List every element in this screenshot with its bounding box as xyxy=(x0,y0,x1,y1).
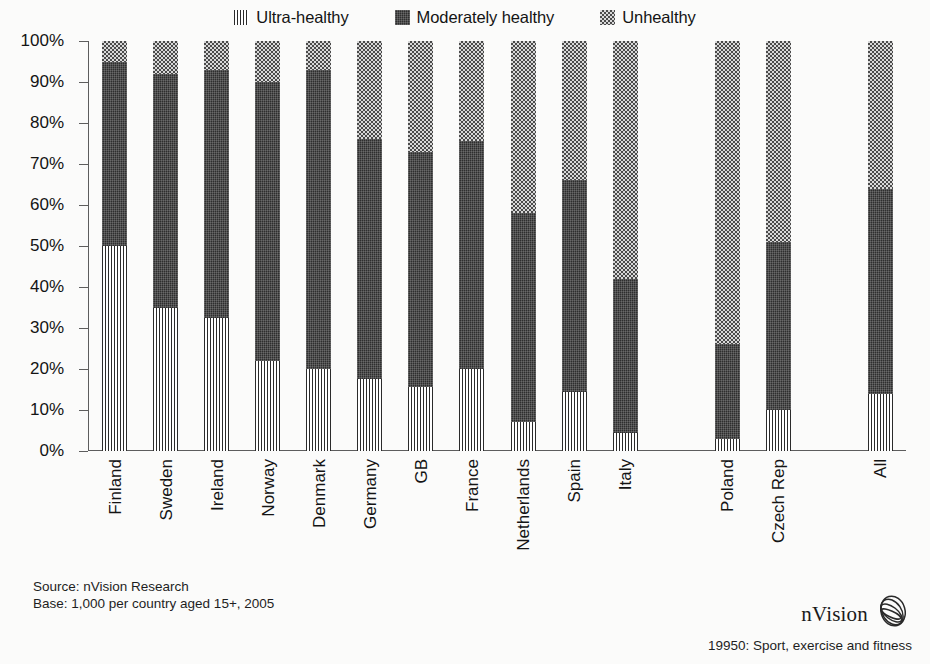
bar-column xyxy=(306,41,331,451)
bar-stack xyxy=(459,41,484,451)
x-tick-label: Spain xyxy=(565,459,585,502)
legend-item-label: Ultra-healthy xyxy=(256,8,348,27)
bar-segment-unhealthy xyxy=(511,41,536,213)
bar-segment-unhealthy xyxy=(562,41,587,180)
bar-segment-unhealthy xyxy=(459,41,484,141)
bar-segment-ultra xyxy=(715,439,740,451)
y-tick-label: 90% xyxy=(30,72,64,92)
y-tick-mark xyxy=(79,287,88,288)
bar-stack xyxy=(153,41,178,451)
legend-item-moderate: Moderately healthy xyxy=(395,8,555,27)
bar-stack xyxy=(306,41,331,451)
x-tick-label: All xyxy=(871,459,891,478)
bar-column xyxy=(459,41,484,451)
bar-stack xyxy=(357,41,382,451)
bar-segment-ultra xyxy=(459,369,484,451)
bar-segment-unhealthy xyxy=(357,41,382,139)
bar-stack xyxy=(562,41,587,451)
x-tick-label: Czech Rep xyxy=(769,459,789,543)
bar-column xyxy=(868,41,893,451)
bar-column xyxy=(102,41,127,451)
bar-segment-unhealthy xyxy=(613,41,638,279)
bar-segment-ultra xyxy=(868,394,893,451)
bar-stack xyxy=(766,41,791,451)
bar-segment-moderate xyxy=(868,189,893,394)
x-tick-label: Netherlands xyxy=(514,459,534,551)
bar-segment-unhealthy xyxy=(408,41,433,152)
y-tick-mark xyxy=(79,328,88,329)
y-tick-label: 10% xyxy=(30,400,64,420)
bar-segment-moderate xyxy=(562,180,587,391)
pattern-vertical-lines-swatch xyxy=(234,10,249,25)
y-tick-mark xyxy=(79,41,88,42)
legend-item-ultra: Ultra-healthy xyxy=(234,8,348,27)
bar-segment-ultra xyxy=(357,379,382,451)
y-tick-label: 0% xyxy=(39,441,64,461)
base-line: Base: 1,000 per country aged 15+, 2005 xyxy=(33,595,274,612)
brand-row: nVision xyxy=(708,592,912,636)
bar-stack xyxy=(511,41,536,451)
x-axis-labels: FinlandSwedenIrelandNorwayDenmarkGermany… xyxy=(89,459,906,571)
bar-segment-unhealthy xyxy=(306,41,331,70)
bar-segment-moderate xyxy=(715,344,740,438)
bar-segment-moderate xyxy=(613,279,638,433)
legend-item-label: Unhealthy xyxy=(622,8,695,27)
x-tick-label: Finland xyxy=(106,459,126,515)
y-tick-label: 30% xyxy=(30,318,64,338)
y-tick-label: 50% xyxy=(30,236,64,256)
x-tick-label: GB xyxy=(412,459,432,484)
y-tick-mark xyxy=(79,369,88,370)
y-tick-mark xyxy=(79,82,88,83)
bar-stack xyxy=(868,41,893,451)
pattern-gray-checker-swatch xyxy=(600,10,615,25)
bar-column xyxy=(255,41,280,451)
chart-page: Ultra-healthyModerately healthyUnhealthy… xyxy=(0,0,930,664)
x-tick-label: Poland xyxy=(718,459,738,512)
bar-segment-moderate xyxy=(306,70,331,369)
bar-segment-ultra xyxy=(613,433,638,451)
bar-stack xyxy=(613,41,638,451)
y-tick-mark xyxy=(79,410,88,411)
y-tick-mark xyxy=(79,246,88,247)
x-tick-label: France xyxy=(463,459,483,512)
x-tick-label: Denmark xyxy=(310,459,330,528)
source-note: Source: nVision Research Base: 1,000 per… xyxy=(33,578,274,612)
y-tick-label: 70% xyxy=(30,154,64,174)
bar-column xyxy=(357,41,382,451)
bar-column xyxy=(204,41,229,451)
y-tick-label: 80% xyxy=(30,113,64,133)
nvision-ellipse-logo-icon xyxy=(872,592,912,636)
bar-stack xyxy=(255,41,280,451)
bars-area xyxy=(89,41,906,451)
brand-block: nVision 19950: Sport, exercise and fitne… xyxy=(708,592,912,653)
bar-segment-ultra xyxy=(766,410,791,451)
brand-name: nVision xyxy=(801,602,868,627)
x-tick-label: Italy xyxy=(616,459,636,490)
bar-segment-moderate xyxy=(766,242,791,410)
bar-stack xyxy=(102,41,127,451)
legend-item-unhealthy: Unhealthy xyxy=(600,8,695,27)
bar-segment-ultra xyxy=(562,392,587,451)
bar-segment-unhealthy xyxy=(715,41,740,344)
bar-segment-ultra xyxy=(102,246,127,451)
bar-segment-ultra xyxy=(306,369,331,451)
bar-segment-unhealthy xyxy=(153,41,178,74)
bar-segment-moderate xyxy=(459,141,484,369)
bar-segment-ultra xyxy=(255,361,280,451)
bar-segment-moderate xyxy=(153,74,178,308)
x-tick-label: Ireland xyxy=(208,459,228,511)
bar-segment-unhealthy xyxy=(204,41,229,70)
bar-column xyxy=(511,41,536,451)
bar-segment-unhealthy xyxy=(766,41,791,242)
y-tick-mark xyxy=(79,451,88,452)
bar-column xyxy=(715,41,740,451)
bar-column xyxy=(408,41,433,451)
bar-column xyxy=(613,41,638,451)
chart-legend: Ultra-healthyModerately healthyUnhealthy xyxy=(0,8,930,27)
plot-area: 0%10%20%30%40%50%60%70%80%90%100% xyxy=(0,34,930,458)
bar-segment-unhealthy xyxy=(255,41,280,82)
bar-segment-ultra xyxy=(204,318,229,451)
bar-stack xyxy=(715,41,740,451)
y-tick-label: 60% xyxy=(30,195,64,215)
y-tick-label: 40% xyxy=(30,277,64,297)
